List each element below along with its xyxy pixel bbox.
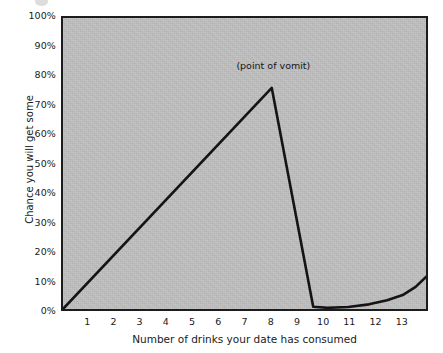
y-tick-label: 90% [10,41,56,51]
x-tick-label: 7 [233,316,257,327]
x-tick-label: 6 [206,316,230,327]
data-line-series [63,88,426,309]
x-tick-label: 11 [337,316,361,327]
y-tick-label: 10% [10,277,56,287]
y-axis-title: Chance you will get some [24,70,35,250]
y-tick-label: 0% [10,306,56,316]
x-tick-label: 13 [390,316,414,327]
y-tick-label: 100% [10,11,56,21]
x-tick-label: 9 [285,316,309,327]
x-tick-label: 2 [101,316,125,327]
chart-figure: 0%10%20%30%40%50%60%70%80%90%100% 123456… [0,0,443,353]
x-tick-label: 5 [180,316,204,327]
x-tick-label: 8 [259,316,283,327]
x-axis-title: Number of drinks your date has consumed [61,333,428,345]
x-axis-tick-labels: 12345678910111213 [0,316,443,330]
x-tick-label: 12 [364,316,388,327]
annotation-point-of-vomit: (point of vomit) [213,60,333,71]
x-tick-label: 10 [311,316,335,327]
x-tick-label: 4 [154,316,178,327]
x-tick-label: 3 [128,316,152,327]
x-tick-label: 1 [75,316,99,327]
